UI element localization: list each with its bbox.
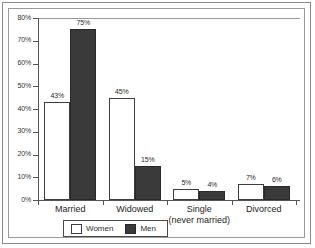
bar-value-label: 45%	[109, 88, 135, 95]
category-label-line1: Married	[55, 204, 86, 214]
women-swatch-icon	[71, 224, 82, 234]
y-axis-tick-label-text: 80%	[1, 14, 31, 21]
category-label-line1: Divorced	[246, 204, 282, 214]
y-axis-tick-label-text: 20%	[1, 150, 31, 157]
bar-value-label: 4%	[199, 181, 225, 188]
y-axis-tick-label-text: 40%	[1, 105, 31, 112]
y-axis-tick-label-text: 0%	[1, 196, 31, 203]
y-axis-tick-label: 70%	[0, 36, 31, 45]
y-axis-tick-label-text: 30%	[1, 127, 31, 134]
plot-area: 43%75%45%15%5%4%7%6%	[38, 18, 296, 200]
y-axis-tick-label: 20%	[0, 150, 31, 159]
bar-value-label: 6%	[264, 176, 290, 183]
y-axis-tick-label-text: 70%	[1, 36, 31, 43]
x-axis-category-label: Divorced	[214, 204, 314, 215]
bar-women	[173, 189, 199, 200]
bar-women	[44, 102, 70, 200]
bar-value-label: 5%	[173, 179, 199, 186]
bar-value-label: 43%	[44, 92, 70, 99]
y-axis-tick-label: 60%	[0, 59, 31, 68]
men-swatch-icon	[125, 224, 136, 234]
bar-men	[199, 191, 225, 200]
y-axis-tick-label: 80%	[0, 14, 31, 23]
bar-women	[238, 184, 264, 200]
category-label-line1: Single	[187, 204, 212, 214]
x-axis-line	[38, 200, 300, 201]
y-axis-tick-label: 30%	[0, 127, 31, 136]
bar-women	[109, 98, 135, 200]
bar-men	[70, 29, 96, 200]
y-axis-tick-label: 40%	[0, 105, 31, 114]
legend-item-women: Women	[71, 224, 113, 234]
y-axis-tick-label-text: 10%	[1, 173, 31, 180]
y-axis-tick-label: 10%	[0, 173, 31, 182]
legend-item-men: Men	[125, 224, 156, 234]
chart-legend: Women Men	[63, 220, 168, 237]
y-axis-tick-label-text: 60%	[1, 59, 31, 66]
bar-value-label: 15%	[135, 156, 161, 163]
bar-value-label: 75%	[70, 19, 96, 26]
bar-men	[264, 186, 290, 200]
y-axis-tick-label: 50%	[0, 82, 31, 91]
legend-label-men: Men	[140, 224, 156, 233]
category-label-line1: Widowed	[116, 204, 153, 214]
bar-men	[135, 166, 161, 200]
chart-screenshot: 80%70%60%50%40%30%20%10%0% 43%75%45%15%5…	[0, 0, 315, 248]
y-axis-tick-label-text: 50%	[1, 82, 31, 89]
bar-value-label: 7%	[238, 174, 264, 181]
legend-label-women: Women	[86, 224, 113, 233]
